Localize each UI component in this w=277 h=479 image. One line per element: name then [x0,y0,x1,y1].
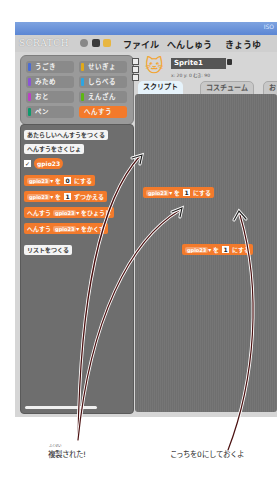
annotation-arrows [0,0,277,479]
caption-right: こっちを0にしておくよ [170,448,244,459]
caption-left: 複製された! [48,448,86,459]
